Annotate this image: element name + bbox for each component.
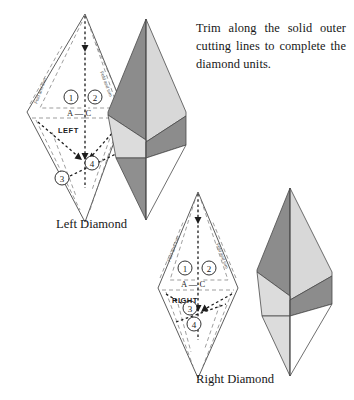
right-pattern-segment-label: A — C bbox=[181, 279, 205, 289]
right-pattern-step-2-label: 2 bbox=[207, 264, 212, 274]
left-pattern-step-1-label: 1 bbox=[69, 93, 74, 103]
left-finished-diamond-unit bbox=[108, 19, 186, 220]
pattern-sheet: 1 2 3 4 A — C LEFT Fold and trim Fold an… bbox=[0, 0, 354, 400]
right-unit-patch-lower-left-light bbox=[262, 316, 290, 376]
right-unit-patch-lower-right-white bbox=[290, 304, 332, 376]
left-pattern-orientation-label: LEFT bbox=[58, 126, 79, 135]
left-unit-patch-lower-left-dark bbox=[116, 158, 146, 220]
right-diamond-caption: Right Diamond bbox=[196, 372, 274, 387]
left-unit-patch-lower-right-white bbox=[146, 145, 186, 220]
right-pattern-orientation-label: RIGHT bbox=[172, 296, 198, 305]
left-pattern-step-4-label: 4 bbox=[90, 159, 95, 169]
right-finished-diamond-unit bbox=[257, 188, 332, 376]
left-pattern-segment-label: A — C bbox=[67, 108, 91, 118]
trim-instruction-text: Trim along the solid outer cutting lines… bbox=[196, 20, 346, 73]
left-pattern-step-3-label: 3 bbox=[60, 174, 65, 184]
left-diamond-caption: Left Diamond bbox=[56, 217, 127, 232]
right-pattern-step-3-label: 3 bbox=[188, 304, 193, 314]
left-pattern-step-2-label: 2 bbox=[93, 93, 98, 103]
right-pattern-step-1-label: 1 bbox=[183, 264, 188, 274]
right-pattern-step-4-label: 4 bbox=[192, 320, 197, 330]
